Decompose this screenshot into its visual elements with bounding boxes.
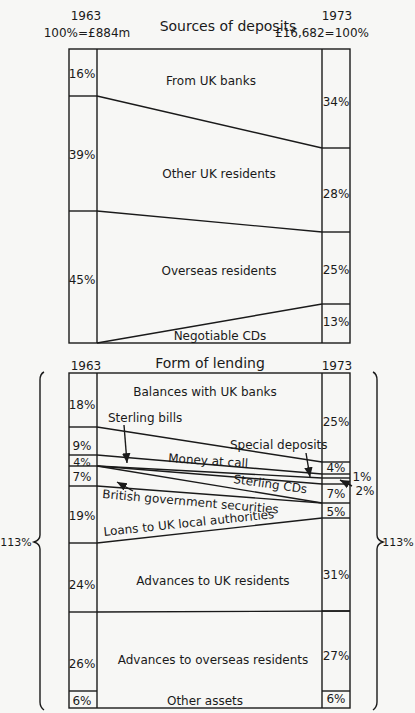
label-balances: Balances with UK banks [133, 385, 276, 399]
bottom-right-year: 1973 [322, 359, 353, 373]
pct-label: 19% [69, 509, 96, 523]
pct-label: 7% [72, 470, 91, 484]
label-overseas-residents: Overseas residents [161, 264, 276, 278]
pct-label: 26% [69, 657, 96, 671]
bottom-title: Form of lending [155, 355, 265, 371]
pct-label: 25% [323, 263, 350, 277]
pct-label: 2% [355, 484, 374, 498]
pct-label: 34% [323, 95, 350, 109]
bottom-left-year: 1963 [71, 359, 102, 373]
pct-label: 24% [69, 578, 96, 592]
pct-label: 6% [72, 694, 91, 708]
label-money-at-call: Money at call [168, 451, 249, 471]
label-sterling-bills: Sterling bills [108, 411, 182, 425]
top-right-total: £16,682=100% [275, 26, 369, 40]
pct-label: 1% [352, 470, 371, 484]
pct-label: 13% [323, 315, 350, 329]
bracket-right-label: 113% [382, 536, 413, 549]
pct-label: 27% [323, 649, 350, 663]
label-negotiable-cds: Negotiable CDs [174, 329, 267, 343]
pct-label: 28% [323, 187, 350, 201]
label-special-deposits: Special deposits [230, 438, 328, 452]
pct-label: 5% [326, 505, 345, 519]
left-brace [34, 372, 44, 710]
bracket-left-label: 113% [0, 536, 31, 549]
label-from-uk-banks: From UK banks [166, 74, 256, 88]
pct-label: 45% [69, 273, 96, 287]
label-adv-uk: Advances to UK residents [136, 574, 289, 588]
sources-frame [69, 49, 350, 343]
label-other-assets: Other assets [167, 694, 243, 708]
top-left-year: 1963 [71, 9, 102, 23]
label-other-uk-residents: Other UK residents [162, 167, 276, 181]
pct-label: 25% [323, 415, 350, 429]
top-right-year: 1973 [322, 9, 353, 23]
label-local-authorities: Loans to UK local authorities [103, 507, 275, 539]
pct-label: 4% [73, 456, 90, 469]
pct-label: 4% [326, 461, 345, 475]
pct-label: 9% [72, 439, 91, 453]
pct-label: 16% [69, 67, 96, 81]
chart-canvas: 1963 100%=£884m Sources of deposits 1973… [0, 0, 415, 713]
pct-label: 6% [326, 692, 345, 706]
top-left-total: 100%=£884m [44, 26, 131, 40]
pct-label: 31% [323, 568, 350, 582]
pct-label: 18% [69, 398, 96, 412]
pct-label: 39% [69, 148, 96, 162]
label-adv-overseas: Advances to overseas residents [118, 653, 309, 667]
pct-label: 7% [326, 487, 345, 501]
